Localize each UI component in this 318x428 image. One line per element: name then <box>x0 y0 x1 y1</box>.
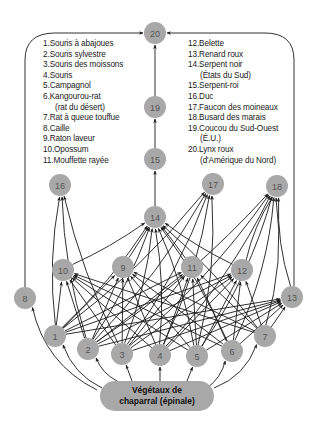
legend-number: 2. <box>43 50 50 61</box>
legend-label: Busard des marais <box>199 113 266 122</box>
svg-text:6: 6 <box>229 347 234 357</box>
legend-item: 13. Renard roux <box>188 50 278 61</box>
legend-number: 13. <box>188 50 199 61</box>
species-node-15: 15 <box>144 148 166 170</box>
legend-label: Faucon des moineaux <box>199 103 278 112</box>
legend-left: 1. Souris à abajoues2. Souris sylvestre3… <box>43 39 123 166</box>
species-node-7: 7 <box>254 325 276 347</box>
species-node-6: 6 <box>221 340 243 362</box>
legend-number: 16. <box>188 92 199 103</box>
legend-label: Souris <box>50 71 73 80</box>
legend-label: Opossum <box>54 145 88 154</box>
legend-number: 3. <box>43 60 50 71</box>
producer-label-line1: Végétaux de <box>132 385 182 395</box>
svg-text:11: 11 <box>187 263 196 273</box>
legend-number: 15. <box>188 81 199 92</box>
legend-label: Raton laveur <box>50 134 95 143</box>
legend-item: 12. Belette <box>188 39 278 50</box>
species-node-12: 12 <box>231 259 253 281</box>
species-node-8: 8 <box>14 287 36 309</box>
species-node-13: 13 <box>281 286 303 308</box>
legend-label: Renard roux <box>199 50 243 59</box>
legend-label-continued: (rat du désert) <box>43 103 123 114</box>
legend-item: 16. Duc <box>188 92 278 103</box>
legend-number: 5. <box>43 81 50 92</box>
legend-item: 1. Souris à abajoues <box>43 39 123 50</box>
svg-text:1: 1 <box>52 332 57 342</box>
legend-label: Souris des moissons <box>50 60 124 69</box>
species-node-17: 17 <box>202 173 224 195</box>
legend-label-continued: (États du Sud) <box>188 71 278 82</box>
species-node-16: 16 <box>49 174 71 196</box>
species-node-2: 2 <box>77 338 99 360</box>
species-node-10: 10 <box>52 259 74 281</box>
legend-number: 20. <box>188 145 199 156</box>
svg-text:17: 17 <box>208 180 218 190</box>
svg-text:13: 13 <box>287 293 297 303</box>
legend-label: Souris sylvestre <box>50 50 106 59</box>
svg-text:19: 19 <box>150 103 160 113</box>
legend-label: Lynx roux <box>199 145 233 154</box>
species-node-4: 4 <box>149 344 171 366</box>
legend-label: Belette <box>199 39 224 48</box>
svg-text:10: 10 <box>58 266 68 276</box>
svg-text:9: 9 <box>120 263 125 273</box>
legend-label: Serpent-roi <box>199 81 238 90</box>
legend-item: 7. Rat à queue touffue <box>43 113 123 124</box>
svg-text:4: 4 <box>157 351 162 361</box>
svg-text:20: 20 <box>150 29 160 39</box>
legend-label: Kangourou-rat <box>50 92 101 101</box>
legend-item: 4. Souris <box>43 71 123 82</box>
legend-right: 12. Belette13. Renard roux14. Serpent no… <box>188 39 278 166</box>
species-node-5: 5 <box>186 345 208 367</box>
producer-box: Végétaux de chaparral (épinale) <box>100 381 214 411</box>
legend-label: Campagnol <box>50 81 91 90</box>
legend-item: 5. Campagnol <box>43 81 123 92</box>
species-node-20: 20 <box>144 22 166 44</box>
legend-label: Coucou du Sud-Ouest <box>199 124 278 133</box>
svg-text:16: 16 <box>55 181 65 191</box>
legend-label: Caille <box>50 124 70 133</box>
legend-item: 11. Mouffette rayée <box>43 156 123 167</box>
legend-item: 9. Raton laveur <box>43 134 123 145</box>
legend-number: 4. <box>43 71 50 82</box>
legend-item: 19. Coucou du Sud-Ouest <box>188 124 278 135</box>
species-node-1: 1 <box>44 325 66 347</box>
legend-number: 9. <box>43 134 50 145</box>
legend-item: 6. Kangourou-rat <box>43 92 123 103</box>
legend-label: Duc <box>199 92 213 101</box>
legend-number: 11. <box>43 156 53 167</box>
species-node-14: 14 <box>144 206 166 228</box>
legend-label: Rat à queue touffue <box>50 113 120 122</box>
svg-text:18: 18 <box>272 182 282 192</box>
legend-item: 2. Souris sylvestre <box>43 50 123 61</box>
species-node-3: 3 <box>111 343 133 365</box>
legend-item: 8. Caille <box>43 124 123 135</box>
species-node-9: 9 <box>112 256 134 278</box>
legend-item: 20. Lynx roux <box>188 145 278 156</box>
legend-label: Serpent noir <box>199 60 242 69</box>
svg-text:15: 15 <box>150 155 160 165</box>
species-node-18: 18 <box>266 175 288 197</box>
legend-number: 18. <box>188 113 199 124</box>
legend-number: 19. <box>188 124 199 135</box>
legend-label: Mouffette rayée <box>53 156 108 165</box>
legend-label-continued: (É.U.) <box>188 134 278 145</box>
svg-text:3: 3 <box>119 350 124 360</box>
legend-label-continued: (d'Amérique du Nord) <box>188 156 278 167</box>
legend-label: Souris à abajoues <box>50 39 114 48</box>
legend-number: 1. <box>43 39 50 50</box>
legend-number: 6. <box>43 92 50 103</box>
producer-label-line2: chaparral (épinale) <box>119 396 195 406</box>
legend-number: 17. <box>188 103 199 114</box>
species-node-19: 19 <box>144 96 166 118</box>
svg-text:7: 7 <box>262 332 267 342</box>
svg-text:2: 2 <box>85 345 90 355</box>
legend-item: 17. Faucon des moineaux <box>188 103 278 114</box>
svg-text:14: 14 <box>150 213 160 223</box>
legend-item: 18. Busard des marais <box>188 113 278 124</box>
legend-item: 15. Serpent-roi <box>188 81 278 92</box>
svg-text:12: 12 <box>237 266 247 276</box>
legend-item: 14. Serpent noir <box>188 60 278 71</box>
legend-number: 7. <box>43 113 50 124</box>
